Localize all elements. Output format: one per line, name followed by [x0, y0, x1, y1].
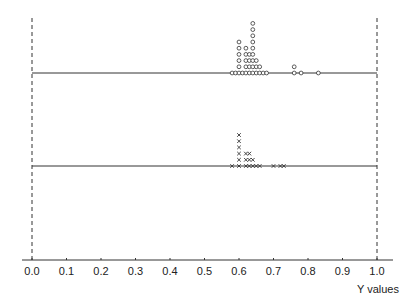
x-tick-label: 0.9 [335, 265, 350, 277]
x-axis-title: Y values [357, 283, 399, 295]
circle-marker [237, 59, 241, 63]
strip-lines [32, 73, 377, 166]
x-marker [248, 152, 252, 156]
circle-marker [251, 46, 255, 50]
x-marker [244, 152, 248, 156]
x-tick-label: 0.7 [266, 265, 281, 277]
data-markers [230, 22, 320, 168]
x-tick-label: 0.2 [93, 265, 108, 277]
x-tick-label: 0.1 [59, 265, 74, 277]
x-marker [251, 158, 255, 162]
circle-marker [251, 40, 255, 44]
circle-marker [251, 34, 255, 38]
circle-marker [237, 46, 241, 50]
x-tick-label: 0.0 [24, 265, 39, 277]
circle-marker [258, 65, 262, 69]
circle-marker [265, 71, 269, 75]
circle-marker [237, 40, 241, 44]
x-marker [244, 158, 248, 162]
x-tick-label: 1.0 [369, 265, 384, 277]
x-marker [237, 152, 241, 156]
x-marker [237, 133, 241, 137]
circle-marker [316, 71, 320, 75]
x-tick-label: 0.4 [162, 265, 177, 277]
x-marker [237, 146, 241, 150]
x-marker [248, 158, 252, 162]
x-tick-label: 0.5 [197, 265, 212, 277]
circle-marker [299, 71, 303, 75]
reference-lines [32, 18, 377, 262]
circle-marker [251, 22, 255, 26]
circle-marker [251, 53, 255, 57]
circle-marker [244, 46, 248, 50]
circle-marker [251, 28, 255, 32]
x-tick-label: 0.6 [231, 265, 246, 277]
circle-marker [292, 65, 296, 69]
x-tick-label: 0.8 [300, 265, 315, 277]
circle-marker [292, 71, 296, 75]
x-axis: 0.00.10.20.30.40.50.60.70.80.91.0 [22, 258, 393, 277]
circle-marker [237, 65, 241, 69]
x-marker [237, 139, 241, 143]
x-marker [237, 158, 241, 162]
circle-marker [237, 53, 241, 57]
x-tick-label: 0.3 [128, 265, 143, 277]
dot-plot-chart: 0.00.10.20.30.40.50.60.70.80.91.0 Y valu… [0, 0, 415, 307]
circle-marker [254, 59, 258, 63]
